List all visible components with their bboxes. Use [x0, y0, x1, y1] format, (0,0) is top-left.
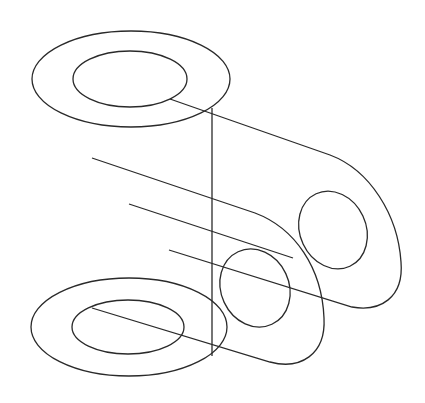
bottom-boss-hole — [72, 300, 184, 354]
upper-lug-outline — [169, 99, 401, 308]
top-boss-outer — [32, 31, 230, 127]
top-boss-hole — [73, 51, 187, 107]
upper-lug-hole — [286, 180, 380, 280]
mid-edge — [129, 204, 293, 258]
lower-lug-hole — [207, 237, 302, 338]
lower-lug-outline — [92, 158, 324, 364]
isometric-part-drawing — [0, 0, 425, 403]
bottom-boss-outer — [31, 278, 227, 376]
